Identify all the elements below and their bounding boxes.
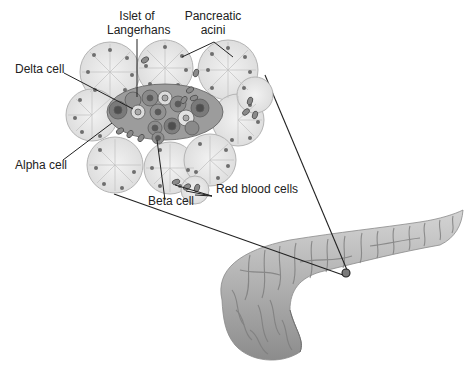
islet-label: Islet of Langerhans [107,9,167,37]
pancreas-islet-diagram: Islet of Langerhans Pancreatic acini Del… [0,0,470,371]
acini-label-line1: Pancreatic [178,9,248,23]
red-blood-cells-label: Red blood cells [216,182,298,196]
islet-label-line2: Langerhans [107,23,167,37]
acini-label-line2: acini [178,23,248,37]
pancreas-organ [221,210,463,360]
islet-label-line1: Islet of [107,9,167,23]
acini-label: Pancreatic acini [178,9,248,37]
delta-cell-label: Delta cell [15,62,64,76]
beta-cell-label: Beta cell [148,194,194,208]
alpha-cell-label: Alpha cell [15,158,67,172]
